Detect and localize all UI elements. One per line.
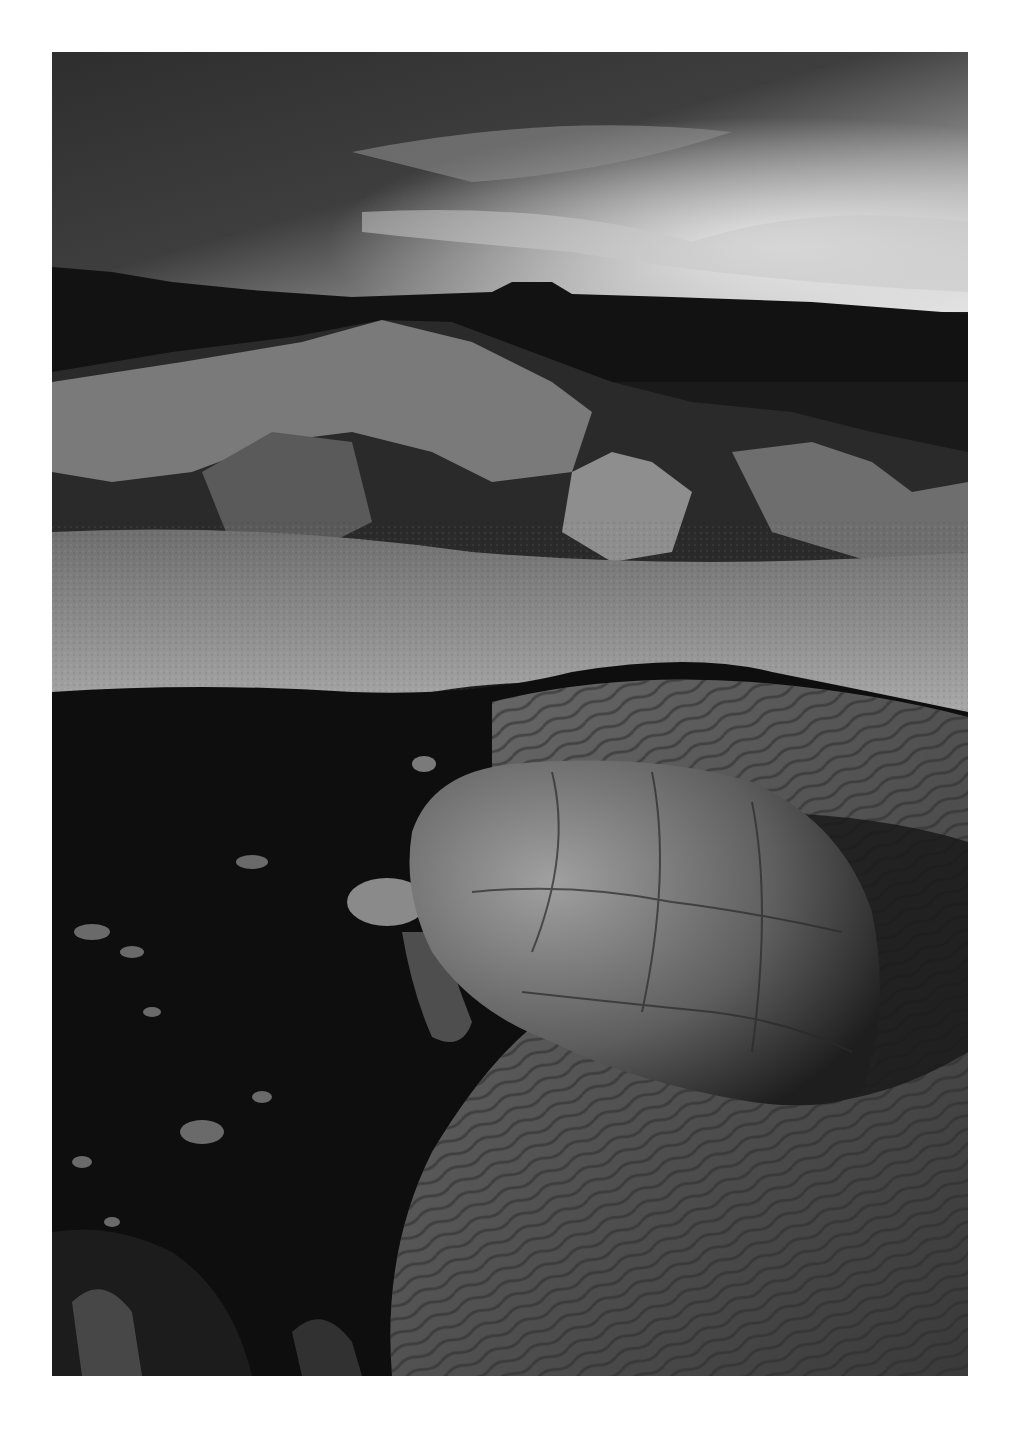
tortoise-photograph: Black-and-white photograph of a giant to… bbox=[52, 52, 968, 1376]
photo-illustration bbox=[52, 52, 968, 1376]
